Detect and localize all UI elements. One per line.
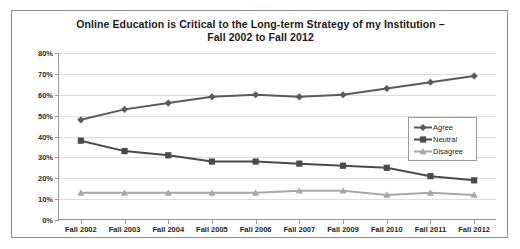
data-point-marker (339, 91, 346, 98)
data-point-marker (253, 158, 259, 164)
data-point-marker (427, 79, 434, 86)
x-axis-label: Fall 2004 (152, 225, 184, 234)
data-point-marker (121, 148, 127, 154)
y-axis-label: 10% (38, 195, 53, 204)
x-axis-label: Fall 2011 (415, 225, 446, 234)
square-marker-icon (413, 134, 433, 145)
data-point-marker (419, 123, 426, 130)
y-axis-label: 30% (38, 153, 53, 162)
data-point-marker (252, 91, 259, 98)
x-axis-label: Fall 2007 (283, 225, 315, 234)
chart-frame: Online Education is Critical to the Long… (11, 10, 508, 238)
x-axis-label: Fall 2006 (240, 225, 272, 234)
legend-label: Neutral (433, 134, 457, 145)
y-axis-label: 50% (38, 111, 53, 120)
y-axis-label: 0% (42, 216, 53, 225)
x-axis-tick-mark (343, 220, 344, 224)
y-axis-tick-mark (55, 220, 59, 221)
x-axis-tick-mark (474, 220, 475, 224)
y-axis-label: 60% (38, 90, 53, 99)
x-axis-label: Fall 2010 (371, 225, 403, 234)
x-axis-label: Fall 2009 (327, 225, 359, 234)
x-axis-label: Fall 2005 (196, 225, 228, 234)
data-point-marker (209, 158, 215, 164)
data-point-marker (165, 100, 172, 107)
data-point-marker (296, 93, 303, 100)
chart-legend: AgreeNeutralDisagree (408, 117, 477, 161)
x-axis-label: Fall 2002 (65, 225, 97, 234)
x-axis-tick-mark (168, 220, 169, 224)
legend-label: Disagree (433, 146, 463, 157)
x-axis-tick-mark (256, 220, 257, 224)
data-point-marker (471, 177, 477, 183)
data-point-marker (77, 116, 84, 123)
chart-screenshot: . . . Online Education is Critical to th… (0, 0, 520, 249)
legend-item-disagree[interactable]: Disagree (413, 145, 473, 157)
legend-label: Agree (433, 122, 453, 133)
data-point-marker (121, 106, 128, 113)
data-point-marker (340, 163, 346, 169)
triangle-marker-icon (413, 146, 433, 157)
y-axis-label: 80% (38, 49, 53, 58)
x-axis-tick-mark (125, 220, 126, 224)
data-point-marker (208, 93, 215, 100)
data-point-marker (427, 173, 433, 179)
legend-item-agree[interactable]: Agree (413, 121, 473, 133)
x-axis-tick-mark (299, 220, 300, 224)
data-point-marker (420, 136, 426, 142)
x-axis-tick-mark (430, 220, 431, 224)
data-point-marker (383, 85, 390, 92)
x-axis-label: Fall 2012 (458, 225, 490, 234)
data-point-marker (296, 161, 302, 167)
diamond-marker-icon (413, 122, 433, 133)
x-axis-tick-mark (81, 220, 82, 224)
y-axis-label: 40% (38, 132, 53, 141)
top-bleed-text: . . . (0, 0, 520, 10)
data-point-marker (78, 138, 84, 144)
data-point-marker (384, 165, 390, 171)
series-line-agree (81, 76, 474, 120)
x-axis-label: Fall 2003 (109, 225, 141, 234)
legend-item-neutral[interactable]: Neutral (413, 133, 473, 145)
data-point-marker (165, 152, 171, 158)
x-axis-tick-mark (212, 220, 213, 224)
y-axis-label: 20% (38, 174, 53, 183)
series-line-disagree (81, 191, 474, 195)
data-point-marker (471, 72, 478, 79)
x-axis-tick-mark (387, 220, 388, 224)
y-axis-label: 70% (38, 69, 53, 78)
